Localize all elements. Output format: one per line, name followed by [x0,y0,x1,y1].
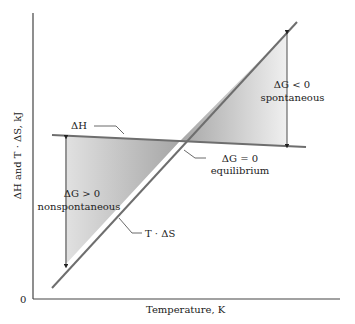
tds-label: T · ΔS [145,228,175,239]
gpos-label: ΔG > 0 [52,188,112,199]
gzero-label: ΔG = 0 [210,153,270,164]
spontaneous-label: spontaneous [255,92,330,103]
x-axis-label: Temperature, K [146,304,225,315]
nonspontaneous-label: nonspontaneous [34,201,124,212]
tds-leader [119,218,142,233]
y-zero-tick: 0 [20,294,26,305]
dh-leader [94,126,124,134]
plot-svg [0,0,355,324]
y-axis-label: ΔH and T · ΔS, kJ [12,101,23,211]
gzero-leader [184,150,206,158]
nonspontaneous-region [52,135,180,265]
equilibrium-label: equilibrium [205,165,275,176]
gibbs-diagram: ΔH and T · ΔS, kJ 0 Temperature, K ΔH T … [0,0,355,324]
gneg-label: ΔG < 0 [262,79,322,90]
dh-label: ΔH [71,120,87,131]
